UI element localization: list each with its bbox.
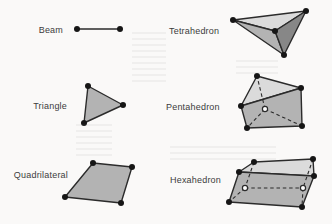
tetrahedron-shape (230, 8, 309, 58)
vertex-dot (298, 85, 304, 91)
vertex-dot (118, 200, 124, 206)
vertex-dot (129, 164, 135, 170)
vertex-dot (281, 52, 287, 58)
hexahedron-shape (226, 156, 317, 210)
vertex-dot (244, 125, 250, 131)
vertex-dot (299, 204, 305, 210)
vertex-dot (299, 123, 305, 129)
quadrilateral-shape (62, 160, 135, 206)
vertex-dot (251, 159, 257, 165)
vertex-dot (90, 160, 96, 166)
vertex-dot (117, 26, 123, 32)
vertex-dot (254, 73, 260, 79)
vertex-dot (74, 26, 80, 32)
vertex-dot (272, 28, 278, 34)
pentahedron-shape (238, 73, 305, 131)
label-triangle: Triangle (33, 100, 67, 112)
label-tetrahedron: Tetrahedron (169, 25, 219, 37)
vertex-dot (230, 17, 236, 23)
vertex-dot (226, 199, 232, 205)
beam-shape (74, 26, 123, 32)
vertex-dot (85, 83, 91, 89)
vertex-dot (311, 173, 317, 179)
label-hexahedron: Hexahedron (170, 174, 221, 186)
label-beam: Beam (39, 24, 63, 36)
hidden-vertex-dot (262, 106, 267, 111)
hidden-vertex-dot (300, 185, 305, 190)
hidden-vertex-dot (242, 185, 247, 190)
vertex-dot (238, 103, 244, 109)
vertex-dot (120, 102, 126, 108)
vertex-dot (303, 8, 309, 14)
label-quadrilateral: Quadrilateral (14, 169, 68, 181)
vertex-dot (81, 120, 87, 126)
vertex-dot (310, 156, 316, 162)
vertex-dot (62, 194, 68, 200)
label-pentahedron: Pentahedron (166, 101, 220, 113)
figure-root: Beam Tetrahedron Triangle Pentahedron Qu… (0, 0, 332, 224)
triangle-shape (81, 83, 126, 126)
vertex-dot (236, 169, 242, 175)
